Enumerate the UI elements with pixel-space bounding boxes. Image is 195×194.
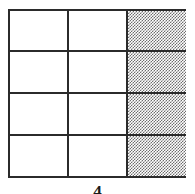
grid-cell-r1c2	[69, 11, 128, 52]
caption-fragment-bottom: 4	[0, 183, 195, 194]
figure-root: ▬▬ 4	[0, 0, 195, 194]
grid-cell-r3c3	[128, 94, 186, 136]
grid-cell-r1c3	[128, 11, 186, 52]
grid-cell-r2c1	[10, 52, 69, 94]
grid-cell-r4c3	[128, 136, 186, 176]
grid-cell-r3c2	[69, 94, 128, 136]
grid-cell-r2c3	[128, 52, 186, 94]
grid-cell-r1c1	[10, 11, 69, 52]
grid-cell-r4c2	[69, 136, 128, 176]
fraction-grid	[8, 9, 186, 178]
grid-cell-r3c1	[10, 94, 69, 136]
grid-cell-r4c1	[10, 136, 69, 176]
grid-cell-r2c2	[69, 52, 128, 94]
